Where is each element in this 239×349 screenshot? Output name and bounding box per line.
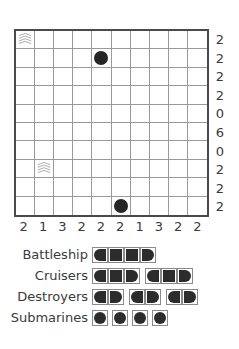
grid-cell[interactable] (73, 123, 92, 141)
grid-cell[interactable] (150, 105, 169, 123)
grid-cell[interactable] (131, 68, 150, 86)
grid-cell[interactable] (35, 31, 54, 49)
grid-cell[interactable] (16, 141, 35, 159)
grid-cell[interactable] (150, 178, 169, 196)
grid-cell[interactable] (169, 31, 188, 49)
grid-cell[interactable] (16, 86, 35, 104)
grid-cell[interactable] (150, 123, 169, 141)
grid-cell[interactable] (16, 49, 35, 67)
grid-cell[interactable] (92, 49, 111, 67)
grid-cell[interactable] (73, 178, 92, 196)
grid-cell[interactable] (112, 105, 131, 123)
grid-cell[interactable] (169, 123, 188, 141)
grid-cell[interactable] (112, 123, 131, 141)
grid-cell[interactable] (54, 123, 73, 141)
grid-cell[interactable] (112, 197, 131, 215)
grid-cell[interactable] (150, 141, 169, 159)
grid-cell[interactable] (131, 123, 150, 141)
grid-cell[interactable] (92, 160, 111, 178)
grid-cell[interactable] (131, 31, 150, 49)
grid-cell[interactable] (131, 49, 150, 67)
grid-cell[interactable] (16, 123, 35, 141)
grid-cell[interactable] (112, 49, 131, 67)
grid-cell[interactable] (92, 141, 111, 159)
grid-cell[interactable] (16, 160, 35, 178)
grid-cell[interactable] (54, 160, 73, 178)
grid-cell[interactable] (35, 160, 54, 178)
grid-cell[interactable] (131, 197, 150, 215)
grid-cell[interactable] (16, 105, 35, 123)
grid-cell[interactable] (112, 160, 131, 178)
grid-cell[interactable] (188, 49, 207, 67)
grid-cell[interactable] (188, 141, 207, 159)
grid-cell[interactable] (188, 105, 207, 123)
grid-cell[interactable] (169, 197, 188, 215)
grid-cell[interactable] (188, 68, 207, 86)
grid-cell[interactable] (92, 105, 111, 123)
grid-cell[interactable] (73, 86, 92, 104)
grid-cell[interactable] (92, 178, 111, 196)
grid-cell[interactable] (73, 31, 92, 49)
grid-cell[interactable] (73, 68, 92, 86)
grid-cell[interactable] (131, 141, 150, 159)
grid-cell[interactable] (188, 123, 207, 141)
grid-cell[interactable] (188, 178, 207, 196)
grid-cell[interactable] (112, 86, 131, 104)
grid-cell[interactable] (188, 86, 207, 104)
grid-cell[interactable] (112, 68, 131, 86)
grid-cell[interactable] (150, 68, 169, 86)
grid-cell[interactable] (54, 105, 73, 123)
grid-cell[interactable] (35, 123, 54, 141)
grid-cell[interactable] (188, 31, 207, 49)
grid-cell[interactable] (35, 141, 54, 159)
grid-cell[interactable] (150, 49, 169, 67)
grid-cell[interactable] (188, 197, 207, 215)
grid-cell[interactable] (92, 68, 111, 86)
grid-cell[interactable] (112, 31, 131, 49)
grid-cell[interactable] (16, 197, 35, 215)
grid-cell[interactable] (16, 178, 35, 196)
grid-cell[interactable] (150, 31, 169, 49)
grid-cell[interactable] (169, 68, 188, 86)
grid-cell[interactable] (54, 197, 73, 215)
grid-cell[interactable] (169, 105, 188, 123)
grid-cell[interactable] (131, 160, 150, 178)
grid-cell[interactable] (35, 68, 54, 86)
grid-cell[interactable] (54, 31, 73, 49)
grid-cell[interactable] (35, 49, 54, 67)
grid-cell[interactable] (150, 86, 169, 104)
grid-cell[interactable] (35, 178, 54, 196)
grid-cell[interactable] (54, 141, 73, 159)
grid-cell[interactable] (169, 141, 188, 159)
grid-cell[interactable] (35, 105, 54, 123)
grid-cell[interactable] (131, 86, 150, 104)
grid-cell[interactable] (16, 31, 35, 49)
grid-cell[interactable] (131, 105, 150, 123)
grid-cell[interactable] (54, 49, 73, 67)
grid-cell[interactable] (169, 49, 188, 67)
grid-cell[interactable] (150, 160, 169, 178)
grid-cell[interactable] (169, 86, 188, 104)
grid-cell[interactable] (92, 123, 111, 141)
grid-cell[interactable] (112, 178, 131, 196)
grid-cell[interactable] (150, 197, 169, 215)
grid-cell[interactable] (73, 197, 92, 215)
grid-cell[interactable] (54, 68, 73, 86)
grid-cell[interactable] (35, 86, 54, 104)
grid-cell[interactable] (131, 178, 150, 196)
grid-cell[interactable] (169, 178, 188, 196)
grid-cell[interactable] (169, 160, 188, 178)
grid-cell[interactable] (54, 178, 73, 196)
grid-cell[interactable] (73, 49, 92, 67)
grid-cell[interactable] (73, 105, 92, 123)
grid-cell[interactable] (73, 141, 92, 159)
grid-cell[interactable] (188, 160, 207, 178)
grid-cell[interactable] (92, 31, 111, 49)
grid-cell[interactable] (16, 68, 35, 86)
grid-cell[interactable] (92, 86, 111, 104)
grid-cell[interactable] (35, 197, 54, 215)
grid-cell[interactable] (112, 141, 131, 159)
grid-cell[interactable] (54, 86, 73, 104)
grid-cell[interactable] (73, 160, 92, 178)
grid-cell[interactable] (92, 197, 111, 215)
